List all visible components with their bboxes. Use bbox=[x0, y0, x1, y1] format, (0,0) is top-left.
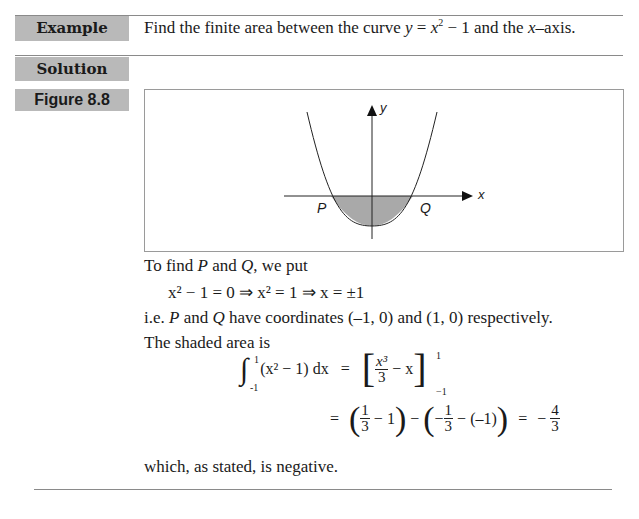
equation-roots: x² − 1 = 0 ⇒ x² = 1 ⇒ x = ±1 bbox=[168, 282, 364, 303]
body-line-1: To find P and Q, we put bbox=[144, 256, 308, 276]
x-axis-label: x bbox=[478, 187, 485, 202]
point-q-label: Q bbox=[420, 200, 431, 216]
body-line-3: i.e. P and Q have coordinates (–1, 0) an… bbox=[144, 308, 553, 328]
y-axis-label: y bbox=[380, 100, 387, 115]
result-equation: = (13 − 1) − (−13 − (–1)) = − 43 bbox=[330, 403, 560, 443]
integral-sign: ∫ bbox=[240, 352, 248, 385]
conclusion-text: which, as stated, is negative. bbox=[144, 457, 338, 477]
integral-equation: ∫ 1 -1 (x² − 1) dx = [x³3 − x] 1 −1 bbox=[240, 352, 427, 400]
x-arrow-icon bbox=[462, 191, 473, 201]
y-arrow-icon bbox=[367, 105, 377, 116]
point-p-label: P bbox=[317, 200, 326, 216]
body-line-4: The shaded area is bbox=[144, 333, 270, 353]
